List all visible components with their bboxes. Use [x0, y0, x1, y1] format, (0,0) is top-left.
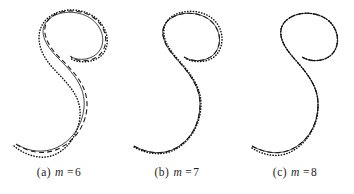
caption-b-label: (b) — [155, 166, 170, 178]
caption-c-label: (c) — [273, 166, 287, 178]
panel-c — [236, 0, 354, 166]
caption-a-label: (a) — [37, 166, 51, 178]
caption-b-symbol: m — [173, 166, 182, 178]
caption-b-value: 7 — [193, 166, 199, 178]
caption-a-value: 6 — [75, 166, 81, 178]
caption-c-equals: = — [303, 166, 310, 178]
panel-b-curve-dotted — [134, 11, 222, 153]
caption-a-symbol: m — [55, 166, 64, 178]
figure-container: (a)m=6 (b)m=7 (c)m=8 — [0, 0, 354, 194]
panel-a-curve-dotted — [14, 10, 107, 157]
caption-panel-c: (c)m=8 — [236, 166, 354, 178]
caption-panel-a: (a)m=6 — [0, 166, 118, 178]
panel-b — [118, 0, 236, 166]
caption-row: (a)m=6 (b)m=7 (c)m=8 — [0, 166, 354, 194]
caption-c-symbol: m — [291, 166, 300, 178]
caption-b-equals: = — [185, 166, 192, 178]
caption-c-value: 8 — [311, 166, 317, 178]
panel-c-curve-dashed — [252, 13, 338, 152]
caption-panel-b: (b)m=7 — [118, 166, 236, 178]
panel-c-plot — [236, 0, 354, 166]
panel-b-curve-dashed — [134, 13, 220, 152]
panel-b-plot — [118, 0, 236, 166]
panel-a — [0, 0, 118, 166]
panel-c-curve-dotted — [252, 13, 338, 155]
panel-a-curve-dashed — [16, 11, 106, 153]
panel-a-curve-solid — [18, 12, 103, 151]
panel-a-plot — [0, 0, 118, 166]
panel-b-curve-solid — [134, 13, 220, 152]
panel-c-curve-solid — [252, 13, 338, 152]
caption-a-equals: = — [67, 166, 74, 178]
